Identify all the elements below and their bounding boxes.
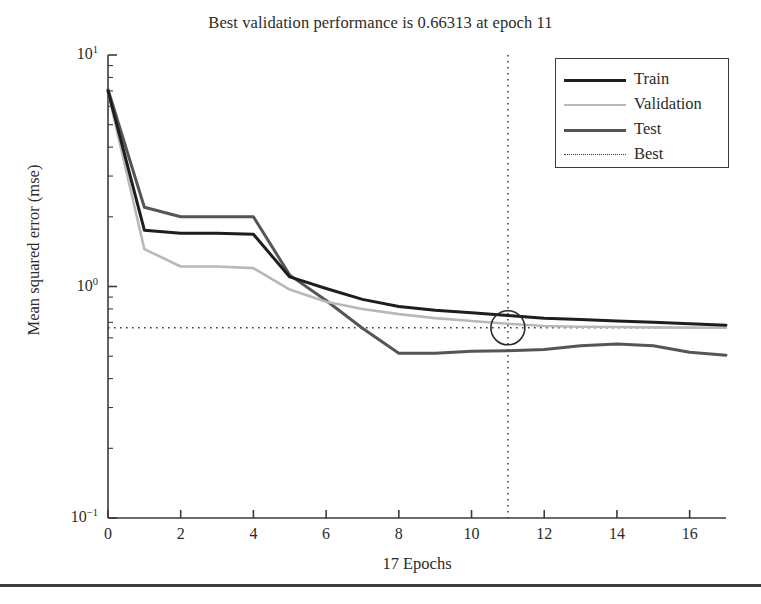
legend-swatch-test bbox=[564, 129, 626, 132]
x-tick-label: 4 bbox=[238, 525, 268, 543]
x-axis-ticks bbox=[108, 510, 690, 518]
y-tick-label: 100 bbox=[36, 276, 98, 295]
legend-label-test: Test bbox=[634, 117, 661, 141]
x-tick-label: 16 bbox=[675, 525, 705, 543]
legend-swatch-train bbox=[564, 79, 626, 82]
legend-item-best[interactable]: Best bbox=[564, 142, 724, 168]
legend-swatch-best bbox=[564, 154, 626, 155]
x-tick-label: 12 bbox=[529, 525, 559, 543]
x-tick-label: 8 bbox=[384, 525, 414, 543]
x-tick-label: 14 bbox=[602, 525, 632, 543]
legend-label-validation: Validation bbox=[634, 92, 702, 116]
bottom-divider bbox=[0, 584, 761, 587]
y-tick-label: 101 bbox=[36, 44, 98, 63]
legend-label-best: Best bbox=[634, 142, 663, 166]
legend-label-train: Train bbox=[634, 67, 669, 91]
legend-item-train[interactable]: Train bbox=[564, 67, 724, 93]
x-tick-label: 6 bbox=[311, 525, 341, 543]
x-tick-label: 10 bbox=[457, 525, 487, 543]
legend-item-test[interactable]: Test bbox=[564, 117, 724, 143]
legend-item-validation[interactable]: Validation bbox=[564, 92, 724, 118]
chart-canvas: Best validation performance is 0.66313 a… bbox=[0, 0, 761, 604]
legend: TrainValidationTestBest bbox=[555, 58, 729, 168]
legend-swatch-validation bbox=[564, 104, 626, 106]
y-tick-label: 10−1 bbox=[36, 507, 98, 526]
x-tick-label: 2 bbox=[166, 525, 196, 543]
x-tick-label: 0 bbox=[93, 525, 123, 543]
